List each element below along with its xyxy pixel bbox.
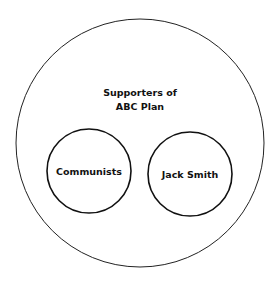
outer-circle-supporters <box>16 19 264 267</box>
outer-label-line2: ABC Plan <box>116 101 165 112</box>
communists-label: Communists <box>56 166 122 177</box>
outer-label-line1: Supporters of <box>103 87 178 98</box>
jack-smith-label: Jack Smith <box>161 169 219 180</box>
euler-diagram: Supporters of ABC Plan Communists Jack S… <box>0 0 279 283</box>
